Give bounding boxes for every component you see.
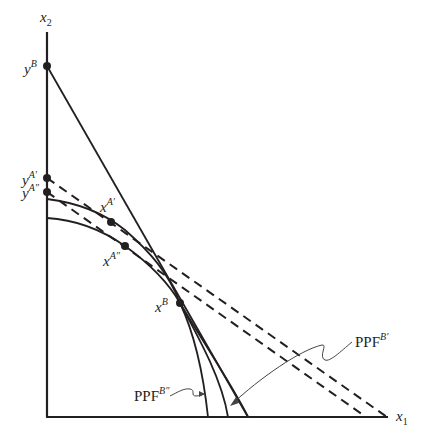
budget-line-A-double-prime [47, 192, 366, 417]
label-yB: yB [22, 58, 37, 77]
label-xA-double-prime: xA″ [102, 250, 121, 269]
label-xB: xB [154, 296, 168, 315]
label-yA-double-prime: yA″ [20, 182, 40, 201]
point-yB [43, 62, 51, 70]
point-xB [176, 299, 184, 307]
ppf-outer-curve [180, 303, 248, 417]
point-yA-prime [43, 174, 51, 182]
point-xA-prime [107, 218, 115, 226]
y-axis-label: x2 [39, 9, 52, 28]
label-ppf-B-double-prime: PPFB″ [134, 385, 170, 404]
ppf-upper-curve [47, 199, 228, 417]
ppf-diagram: x2 x1 yB yA′ yA″ xA′ xA″ xB PPFB″ PPFB′ [0, 0, 435, 441]
axes [46, 32, 388, 417]
point-yA-double-prime [43, 188, 51, 196]
x-axis-label: x1 [395, 408, 408, 427]
point-xA-double-prime [121, 242, 129, 250]
label-ppf-B-prime: PPFB′ [355, 331, 389, 350]
label-xA-prime: xA′ [99, 196, 116, 215]
